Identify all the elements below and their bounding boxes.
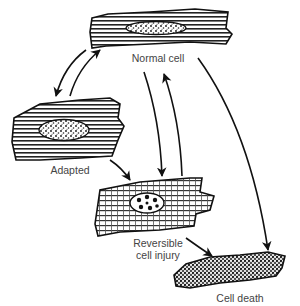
label-reversible-line2: cell injury (118, 249, 198, 261)
arrow-normal-to-adapted (56, 50, 86, 96)
adapted-cell-nucleus (39, 120, 89, 141)
cell-injury-diagram: Normal cell Adapted Reversible cell inju… (0, 0, 300, 306)
label-reversible-line1: Reversible (118, 237, 198, 249)
label-cell-death: Cell death (200, 292, 280, 304)
normal-cell-drawing (90, 9, 232, 48)
arrow-normal-to-reversible (144, 72, 162, 176)
normal-cell-nucleus (126, 22, 186, 35)
arrow-adapted-to-reversible (110, 160, 130, 180)
label-adapted: Adapted (30, 164, 110, 176)
label-normal-cell: Normal cell (118, 52, 198, 64)
arrow-reversible-to-normal (164, 74, 182, 176)
reversible-injury-cell-drawing (95, 178, 214, 236)
adapted-cell-drawing (12, 98, 124, 160)
arrow-normal-to-death (198, 58, 268, 250)
arrow-adapted-to-normal (70, 50, 100, 96)
